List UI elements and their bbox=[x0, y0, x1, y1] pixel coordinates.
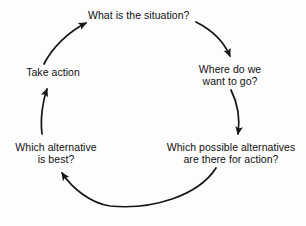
cycle-diagram: What is the situation? Where do we want … bbox=[0, 0, 306, 226]
node-line: Take action bbox=[14, 66, 92, 78]
node-line: Where do we bbox=[190, 63, 270, 75]
node-line: are there for action? bbox=[166, 153, 296, 165]
node-which-alternative-is-best: Which alternative is best? bbox=[9, 141, 103, 165]
arrow-situation-to-destination bbox=[196, 22, 230, 56]
arrow-action-to-situation bbox=[44, 23, 86, 64]
node-line: What is the situation? bbox=[88, 9, 188, 21]
node-line: Which possible alternatives bbox=[166, 141, 296, 153]
arrow-destination-to-alternatives bbox=[231, 90, 239, 134]
node-what-is-the-situation: What is the situation? bbox=[88, 9, 188, 21]
node-take-action: Take action bbox=[14, 66, 92, 78]
node-line: is best? bbox=[9, 153, 103, 165]
arrow-layer bbox=[0, 0, 306, 226]
arrow-best-to-action bbox=[41, 89, 47, 134]
node-which-possible-alternatives-are-there-for-action: Which possible alternatives are there fo… bbox=[166, 141, 296, 165]
node-where-do-we-want-to-go: Where do we want to go? bbox=[190, 63, 270, 87]
arrow-alternatives-to-best bbox=[62, 168, 216, 207]
node-line: want to go? bbox=[190, 75, 270, 87]
node-line: Which alternative bbox=[9, 141, 103, 153]
